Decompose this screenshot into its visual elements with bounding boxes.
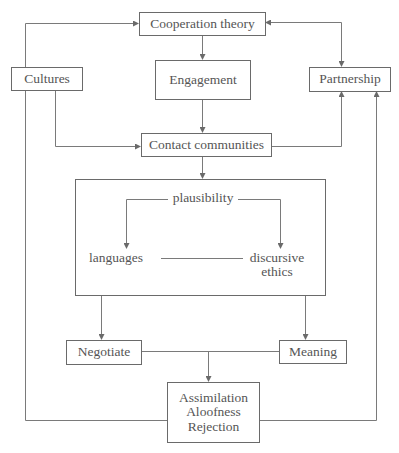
discursive-ethics-label: discursive ethics [244,251,310,279]
cooperation-theory-node: Cooperation theory [139,12,266,36]
edge-cultures-to-cooperation [26,24,139,68]
cultures-node: Cultures [11,67,83,91]
cultures-label: Cultures [24,72,70,86]
meaning-node: Meaning [279,340,347,364]
outcome-node: Assimilation Aloofness Rejection [167,382,260,443]
discursive-ethics-line2: ethics [244,265,310,279]
partnership-node: Partnership [309,67,391,92]
contact-communities-node: Contact communities [141,133,272,157]
edge-cultures-to-contact [56,90,141,147]
languages-label: languages [86,251,146,265]
engagement-node: Engagement [155,60,251,100]
negotiate-label: Negotiate [78,345,130,359]
meaning-label: Meaning [289,345,337,359]
outcome-rejection: Rejection [188,420,240,434]
outcome-assimilation: Assimilation [179,391,248,405]
plausibility-label: plausibility [168,191,238,205]
outcome-aloofness: Aloofness [186,405,241,419]
diagram-canvas: Cooperation theory Engagement Cultures P… [0,0,399,453]
engagement-label: Engagement [169,73,236,87]
contact-communities-label: Contact communities [149,138,264,152]
edge-partnership-to-cooperation [266,23,342,31]
cooperation-theory-label: Cooperation theory [150,17,255,31]
edge-contact-to-partnership [271,92,342,147]
discursive-ethics-line1: discursive [244,251,310,265]
negotiate-node: Negotiate [66,340,142,365]
partnership-label: Partnership [319,72,381,86]
